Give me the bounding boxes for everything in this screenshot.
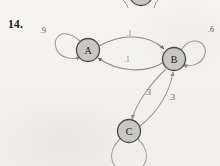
figure-page: 14. bbox=[0, 0, 220, 166]
edge-label-a-to-b: .1 bbox=[126, 29, 132, 38]
node-c[interactable]: C bbox=[118, 120, 141, 143]
edge-b-to-a bbox=[98, 58, 164, 70]
edge-label-b-to-c: .3 bbox=[145, 88, 151, 97]
node-a-label: A bbox=[84, 45, 92, 56]
node-a[interactable]: A bbox=[77, 39, 100, 62]
edge-label-self-loop-b: .6 bbox=[208, 25, 214, 34]
node-c-label: C bbox=[126, 126, 133, 137]
node-b[interactable]: B bbox=[163, 48, 186, 71]
node-b-label: B bbox=[171, 54, 178, 65]
edge-label-c-to-b: .3 bbox=[169, 93, 175, 102]
edge-a-to-b bbox=[99, 37, 164, 49]
edge-label-b-to-a: .1 bbox=[124, 55, 130, 64]
edge-label-self-loop-a: .9 bbox=[40, 26, 46, 35]
partial-node-top bbox=[120, 0, 160, 8]
state-diagram: A B C .9 .6 .1 .1 .3 .3 bbox=[0, 0, 220, 166]
edge-a-self-loop bbox=[55, 34, 80, 59]
